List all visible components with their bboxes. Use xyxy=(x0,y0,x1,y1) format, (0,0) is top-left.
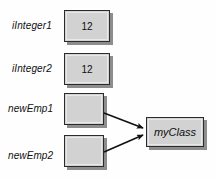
value-text-iinteger1: 12 xyxy=(81,21,92,32)
object-label-myclass: myClass xyxy=(154,126,196,138)
object-reference-diagram: iInteger1 iInteger2 newEmp1 newEmp2 12 1… xyxy=(0,0,216,178)
reference-arrows xyxy=(0,0,216,178)
arrow-newemp1-to-myclass xyxy=(104,113,143,128)
value-text-iinteger2: 12 xyxy=(81,64,92,75)
arrow-newemp2-to-myclass xyxy=(104,135,143,152)
